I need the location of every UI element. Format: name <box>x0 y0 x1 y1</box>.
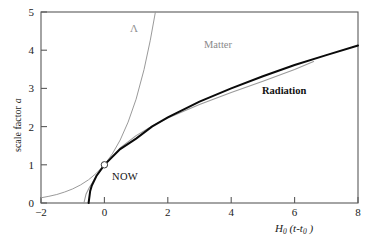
x-axis-title-sub-zero-1: 0 <box>283 227 287 236</box>
y-axis-title-text: scale factor <box>12 106 23 152</box>
plot-frame <box>41 12 358 203</box>
y-tick-label-4: 4 <box>18 44 34 56</box>
x-tick-label-8: 8 <box>348 206 368 218</box>
curve-lambda <box>41 12 155 198</box>
plot-canvas <box>0 0 376 244</box>
y-tick-label-3: 3 <box>18 82 34 94</box>
x-axis-title: H0 (t-t0 ) <box>275 222 313 234</box>
x-tick-label-0: 0 <box>94 206 114 218</box>
cosmology-scale-factor-figure: 0 1 2 3 4 5 −2 0 2 4 6 8 scale factora H… <box>0 0 376 244</box>
now-marker-icon <box>101 162 107 168</box>
x-tick-label-neg2: −2 <box>31 206 51 218</box>
curve-label-radiation: Radiation <box>262 85 306 96</box>
curve-label-lambda: Λ <box>130 22 138 34</box>
y-tick-label-1: 1 <box>18 159 34 171</box>
y-axis-title: scale factora <box>12 98 23 152</box>
x-axis-title-end: ) <box>307 222 313 234</box>
y-tick-label-5: 5 <box>18 6 34 18</box>
x-tick-label-6: 6 <box>285 206 305 218</box>
y-axis-title-variable: a <box>12 98 23 106</box>
x-tick-label-4: 4 <box>221 206 241 218</box>
x-tick-label-2: 2 <box>158 206 178 218</box>
y-axis-ticks <box>41 12 47 203</box>
annotation-now: NOW <box>112 171 138 182</box>
x-axis-title-mid: (t-t <box>287 222 303 234</box>
x-axis-title-sub-zero-2: 0 <box>303 227 307 236</box>
x-axis-title-h: H <box>275 222 283 234</box>
curve-label-matter: Matter <box>204 39 232 50</box>
